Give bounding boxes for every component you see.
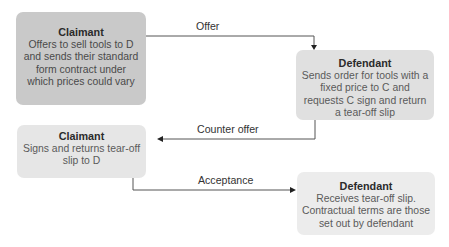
node-line: form contract under (20, 64, 142, 77)
acceptance-arrowhead-icon (290, 187, 296, 193)
node-title: Claimant (20, 26, 142, 39)
node-title: Defendant (300, 57, 430, 70)
counter-offer-arrowhead-icon (157, 136, 163, 142)
edge-label-offer: Offer (196, 20, 219, 32)
node-claimant-offer: Claimant Offers to sell tools to D and s… (16, 12, 146, 105)
node-line: which prices could vary (20, 76, 142, 89)
node-line: Offers to sell tools to D (20, 39, 142, 52)
offer-arrow (146, 36, 314, 46)
node-line: Receives tear-off slip. (301, 193, 431, 206)
edge-label-counter-offer: Counter offer (197, 123, 259, 135)
node-title: Defendant (301, 180, 431, 193)
node-line: Signs and returns tear-off (21, 143, 142, 156)
node-line: slip to D (21, 155, 142, 168)
node-title: Claimant (21, 130, 142, 143)
node-line: fixed price to C and (300, 82, 430, 95)
edge-label-acceptance: Acceptance (198, 174, 253, 186)
node-defendant-order: Defendant Sends order for tools with a f… (296, 50, 434, 120)
node-line: Contractual terms are those (301, 205, 431, 218)
node-defendant-receives: Defendant Receives tear-off slip. Contra… (297, 172, 435, 235)
node-line: requests C sign and return (300, 95, 430, 108)
node-claimant-signs: Claimant Signs and returns tear-off slip… (17, 125, 146, 178)
node-line: Sends order for tools with a (300, 70, 430, 83)
node-line: and sends their standard (20, 51, 142, 64)
node-line: set out by defendant (301, 218, 431, 231)
node-line: a tear-off slip (300, 107, 430, 120)
